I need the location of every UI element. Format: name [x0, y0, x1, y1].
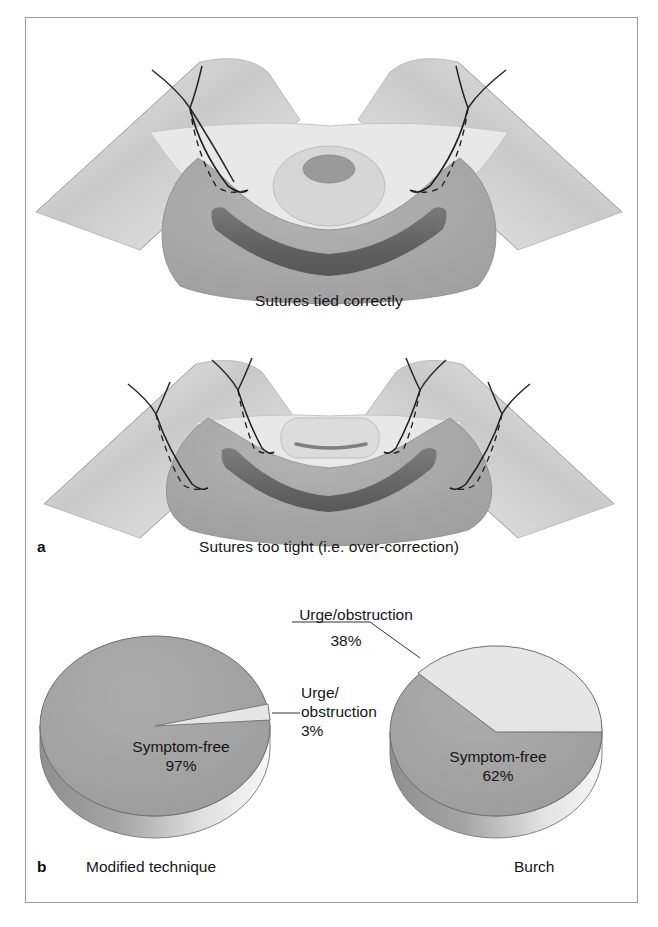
illustration-sutures-tied-correctly: [0, 0, 658, 330]
illustration-sutures-too-tight: [0, 326, 658, 566]
urethral-opening-compressed: [281, 418, 379, 458]
label-urge-obstruction-left: Urge/ obstruction 3%: [301, 684, 377, 741]
symptom-free-text-left: Symptom-free: [91, 738, 271, 757]
label-pct-97: 97%: [91, 757, 271, 776]
label-pct-3: 3%: [301, 722, 377, 741]
symptom-free-text-right: Symptom-free: [412, 748, 584, 767]
label-pct-38: 38%: [316, 632, 376, 651]
figure-root: Sutures tied correctly: [0, 0, 658, 927]
label-urge-obstruction-right: Urge/obstruction: [256, 606, 456, 625]
label-modified-technique: Modified technique: [86, 858, 216, 877]
label-burch: Burch: [514, 858, 555, 877]
label-pct-62: 62%: [412, 767, 584, 786]
caption-sutures-too-tight: Sutures too tight (i.e. over-correction): [0, 538, 658, 556]
caption-sutures-tied-correctly: Sutures tied correctly: [0, 292, 658, 310]
panel-letter-b: b: [37, 858, 46, 876]
label-urge-line1: Urge/: [301, 684, 377, 703]
label-symptom-free-left: Symptom-free 97%: [91, 738, 271, 776]
label-symptom-free-right: Symptom-free 62%: [412, 748, 584, 786]
label-obstruction-line2: obstruction: [301, 703, 377, 722]
pie-chart-modified-technique: [40, 636, 300, 838]
urethral-opening: [273, 146, 385, 226]
